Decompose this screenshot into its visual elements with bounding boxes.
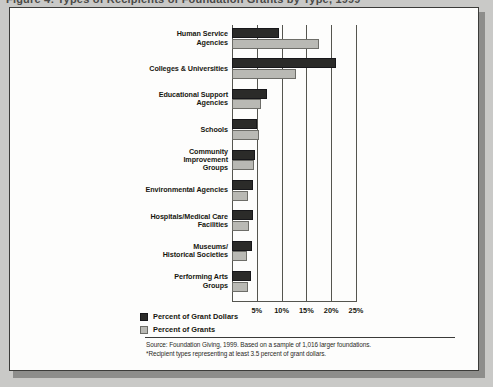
- category-label-0: Human ServiceAgencies: [30, 30, 228, 47]
- bar-percent-of-grant-dollars-1: [232, 58, 336, 68]
- bar-percent-of-grants-8: [232, 282, 248, 292]
- x-tick-label-10: 10%: [269, 306, 295, 315]
- category-label-7-line-1: Historical Societies: [30, 251, 228, 259]
- category-label-3: Schools: [30, 126, 228, 134]
- category-label-2: Educational SupportAgencies: [30, 91, 228, 108]
- bar-percent-of-grants-2: [232, 99, 261, 109]
- legend-label-dollars: Percent of Grant Dollars: [153, 312, 238, 321]
- x-tick-label-5: 5%: [244, 306, 270, 315]
- category-label-4-line-2: Groups: [30, 164, 228, 172]
- bar-percent-of-grants-5: [232, 191, 248, 201]
- source-divider: [145, 337, 455, 338]
- category-label-4-line-1: Improvement: [30, 156, 228, 164]
- bar-percent-of-grant-dollars-7: [232, 241, 252, 251]
- category-label-3-line-0: Schools: [30, 126, 228, 134]
- category-label-0-line-1: Agencies: [30, 39, 228, 47]
- category-label-1: Colleges & Universities: [30, 65, 228, 73]
- bar-percent-of-grant-dollars-6: [232, 210, 253, 220]
- x-tick-label-20: 20%: [318, 306, 344, 315]
- bar-percent-of-grant-dollars-4: [232, 150, 255, 160]
- figure-title: Figure 4: Types of Recipients of Foundat…: [6, 0, 361, 5]
- category-label-8: Performing ArtsGroups: [30, 273, 228, 290]
- bar-percent-of-grant-dollars-8: [232, 271, 251, 281]
- bar-percent-of-grants-7: [232, 251, 247, 261]
- source-line-1: Source: Foundation Giving, 1999. Based o…: [146, 341, 371, 348]
- legend-swatch-dollars: [140, 313, 148, 321]
- legend-item-dollars: Percent of Grant Dollars: [140, 312, 238, 321]
- plot-region: [232, 25, 356, 302]
- bar-percent-of-grant-dollars-2: [232, 89, 267, 99]
- bar-percent-of-grants-3: [232, 130, 259, 140]
- chart-panel: Human ServiceAgenciesColleges & Universi…: [9, 7, 479, 371]
- category-label-6: Hospitals/Medical CareFacilities: [30, 213, 228, 230]
- cropped-title-strip: Figure 4: Types of Recipients of Foundat…: [0, 0, 493, 7]
- x-tick-label-15: 15%: [293, 306, 319, 315]
- bar-percent-of-grant-dollars-5: [232, 180, 253, 190]
- legend-swatch-grants: [140, 326, 148, 334]
- category-label-5-line-0: Environmental Agencies: [30, 186, 228, 194]
- source-line-2: *Recipient types representing at least 3…: [146, 350, 326, 357]
- bar-percent-of-grant-dollars-0: [232, 28, 279, 38]
- chart-area: Human ServiceAgenciesColleges & Universi…: [10, 8, 480, 372]
- bar-percent-of-grants-6: [232, 221, 249, 231]
- bar-percent-of-grants-1: [232, 69, 296, 79]
- legend-label-grants: Percent of Grants: [153, 325, 215, 334]
- category-label-4: CommunityImprovementGroups: [30, 148, 228, 173]
- category-label-2-line-1: Agencies: [30, 99, 228, 107]
- x-tick-label-25: 25%: [343, 306, 369, 315]
- category-label-8-line-1: Groups: [30, 282, 228, 290]
- category-label-5: Environmental Agencies: [30, 186, 228, 194]
- category-label-1-line-0: Colleges & Universities: [30, 65, 228, 73]
- category-label-6-line-1: Facilities: [30, 221, 228, 229]
- bar-percent-of-grants-4: [232, 160, 254, 170]
- bar-percent-of-grants-0: [232, 39, 319, 49]
- category-label-8-line-0: Performing Arts: [30, 273, 228, 281]
- axis-baseline: [232, 301, 356, 302]
- gridline-25: [356, 25, 357, 302]
- legend-item-grants: Percent of Grants: [140, 325, 215, 334]
- bar-percent-of-grant-dollars-3: [232, 119, 257, 129]
- category-label-7: Museums/Historical Societies: [30, 243, 228, 260]
